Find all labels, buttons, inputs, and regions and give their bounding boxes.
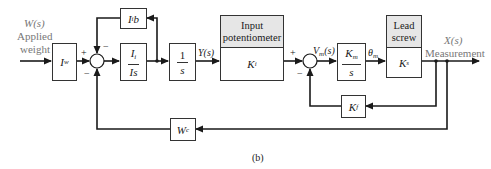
- input-label-applied: Applied: [17, 30, 52, 42]
- block-iw-sub: w: [64, 58, 69, 66]
- block-input-potentiometer: Ki: [220, 47, 284, 81]
- figure-caption: (b): [252, 152, 264, 163]
- sum1-minus-top-sign: −: [103, 41, 109, 52]
- input-pot-header-line1: Input: [241, 20, 263, 32]
- block-motor-num-sub: m: [353, 53, 358, 61]
- lead-screw-header-line2: screw: [392, 32, 417, 44]
- block-motor-num-symbol: K: [345, 47, 352, 59]
- block-iw: Iw: [52, 43, 77, 81]
- input-signal-label: W(s): [24, 17, 45, 29]
- block-wc-symbol: W: [177, 124, 186, 136]
- block-kf-sub: f: [356, 103, 358, 111]
- lead-screw-header: Lead screw: [386, 15, 422, 48]
- input-potentiometer-header: Input potentiometer: [220, 15, 284, 48]
- signal-theta-label: θm: [368, 47, 378, 60]
- signal-y-label: Y(s): [198, 47, 214, 58]
- block-ii-num-sub: i: [134, 53, 136, 61]
- sum1-plus-sign: +: [81, 47, 87, 58]
- signal-theta-sub: m: [373, 52, 378, 60]
- signal-vm-label: Vm(s): [313, 45, 335, 58]
- sum2-minus-sign: −: [297, 68, 303, 79]
- block-ii-over-is: Ii Is: [120, 43, 147, 81]
- input-pot-sub: i: [255, 60, 257, 68]
- output-signal-label: X(s): [444, 34, 462, 46]
- output-label-measurement: Measurement: [425, 47, 485, 59]
- input-label-weight: weight: [20, 43, 50, 55]
- block-integrator: 1 s: [169, 43, 196, 81]
- block-kf-symbol: K: [349, 101, 356, 113]
- block-integrator-num: 1: [177, 49, 189, 63]
- block-motor-den: s: [349, 65, 353, 78]
- input-pot-symbol: K: [247, 58, 254, 70]
- block-wc-sub: c: [186, 126, 189, 134]
- lead-screw-header-line1: Lead: [394, 20, 415, 32]
- sum1-minus-bottom-sign: −: [84, 68, 90, 79]
- lead-screw-symbol: K: [399, 57, 406, 69]
- block-kf: Kf: [341, 95, 366, 118]
- block-integrator-den: s: [180, 63, 184, 76]
- signal-vm-arg: (s): [324, 45, 335, 56]
- input-pot-header-line2: potentiometer: [223, 32, 281, 44]
- block-wc: Wc: [170, 118, 196, 141]
- summing-junction-1: [90, 54, 104, 68]
- block-iib-suffix: b: [134, 13, 140, 25]
- block-ii-den: Is: [130, 65, 138, 78]
- block-motor: Km s: [337, 43, 366, 81]
- lead-screw-sub: s: [406, 59, 409, 67]
- block-iib: Iib: [120, 8, 147, 29]
- sum2-plus-sign: +: [290, 47, 296, 58]
- block-lead-screw: Ks: [386, 47, 422, 78]
